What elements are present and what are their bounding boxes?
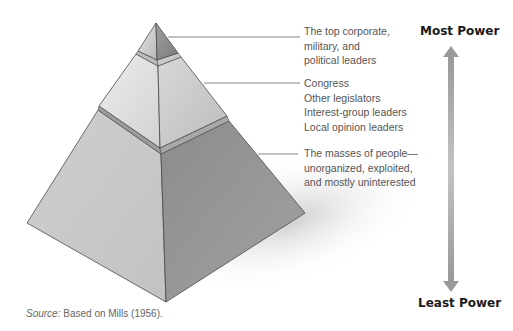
tier-label-middle: Congress Other legislators Interest-grou… xyxy=(304,76,407,134)
tier-label-top: The top corporate, military, and politic… xyxy=(304,24,390,68)
most-power-label: Most Power xyxy=(420,24,499,38)
source-text: Based on Mills (1956). xyxy=(60,308,162,319)
source-note: Source: Based on Mills (1956). xyxy=(26,308,163,319)
least-power-label: Least Power xyxy=(418,296,501,310)
double-arrow-vertical-icon xyxy=(443,46,459,292)
tier-label-line: Local opinion leaders xyxy=(304,120,407,135)
tier-label-bottom: The masses of people— unorganized, explo… xyxy=(304,146,418,190)
tier-label-line: Interest-group leaders xyxy=(304,105,407,120)
tier-label-line: unorganized, exploited, xyxy=(304,161,418,176)
tier-label-line: military, and xyxy=(304,39,390,54)
tier-label-line: and mostly uninterested xyxy=(304,175,418,190)
tier-label-line: Other legislators xyxy=(304,91,407,106)
tier-label-line: The top corporate, xyxy=(304,24,390,39)
tier-label-line: political leaders xyxy=(304,53,390,68)
source-prefix: Source: xyxy=(26,308,60,319)
tier-label-line: The masses of people— xyxy=(304,146,418,161)
pyramid-diagram xyxy=(0,0,513,331)
tier-label-line: Congress xyxy=(304,76,407,91)
